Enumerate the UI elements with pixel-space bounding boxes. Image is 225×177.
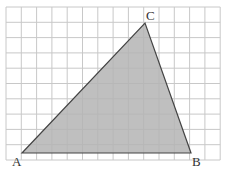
vertex-label-b: B [192,154,201,169]
triangle-abc [22,23,191,153]
triangle-grid-diagram: A B C [0,0,225,177]
vertex-label-a: A [12,154,22,169]
vertex-label-c: C [146,8,155,23]
